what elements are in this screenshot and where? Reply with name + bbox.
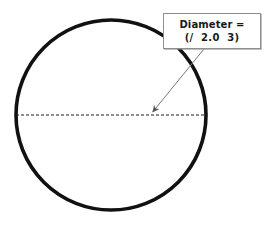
diameter-callout-box: Diameter = (/ 2.0 3) <box>163 13 261 49</box>
callout-leader-arrow <box>153 49 204 112</box>
callout-line-1: Diameter = <box>179 18 244 31</box>
callout-line-2: (/ 2.0 3) <box>185 31 240 44</box>
diagram-canvas: Diameter = (/ 2.0 3) <box>0 0 277 227</box>
